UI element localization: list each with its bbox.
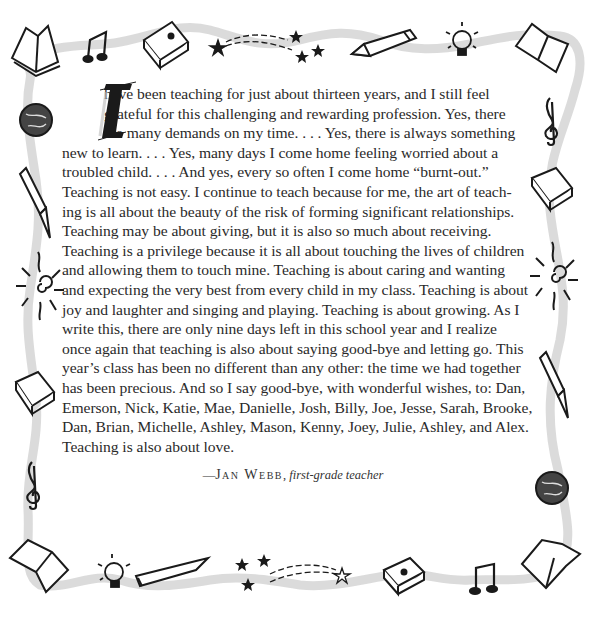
author-name: Jan Webb [215, 467, 283, 482]
attribution: —Jan Webb, first-grade teacher [62, 467, 524, 483]
attribution-dash: — [203, 468, 216, 482]
quote-line: troubled child. . . . And yes, every so … [62, 162, 524, 182]
quote-line: year’s class has been no different than … [62, 358, 524, 378]
quote-line: Teaching is not easy. I continue to teac… [62, 182, 524, 202]
quote-line: and expecting the very best from every c… [62, 280, 524, 300]
quote-line: and allowing them to touch mine. Teachin… [62, 260, 524, 280]
quote-line: new to learn. . . . Yes, many days I com… [62, 143, 524, 163]
quote-line: has been precious. And so I say good-bye… [62, 378, 524, 398]
quote-line: joy and laughter and singing and playing… [62, 300, 524, 320]
quote-line: Dan, Brian, Michelle, Ashley, Mason, Ken… [62, 417, 524, 437]
quote-line: Teaching is also about love. [62, 437, 524, 457]
author-title: first-grade teacher [289, 468, 383, 482]
quote-line: once again that teaching is also about s… [62, 339, 524, 359]
stars-icon [235, 554, 271, 591]
globe-icon [20, 104, 52, 136]
sun-icon [16, 252, 64, 320]
open-book-icon [12, 26, 60, 76]
quote-line: write this, there are only nine days lef… [62, 319, 524, 339]
quote-body: have been teaching for just about thirte… [62, 84, 524, 456]
drop-cap-letter [96, 80, 138, 144]
quote-line: ing is all about the beauty of the risk … [62, 202, 524, 222]
closed-book-icon [384, 558, 424, 594]
quote-line: Emerson, Nick, Katie, Mae, Danielle, Jos… [62, 398, 524, 418]
quote-line: Teaching is a privilege because it is al… [62, 241, 524, 261]
quote-line: Teaching may be about giving, but it is … [62, 221, 524, 241]
globe-icon [536, 472, 568, 504]
treble-clef-icon [545, 98, 557, 145]
